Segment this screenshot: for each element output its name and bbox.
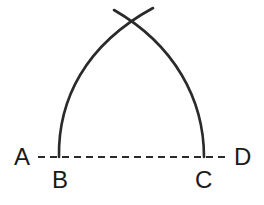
label-c: C <box>195 168 212 192</box>
label-b: B <box>52 168 68 192</box>
label-d: D <box>234 145 251 169</box>
arc-from-c <box>114 10 204 157</box>
diagram-svg <box>0 0 264 205</box>
arc-from-b <box>59 8 153 157</box>
label-a: A <box>14 145 30 169</box>
construction-diagram: A B C D <box>0 0 264 205</box>
